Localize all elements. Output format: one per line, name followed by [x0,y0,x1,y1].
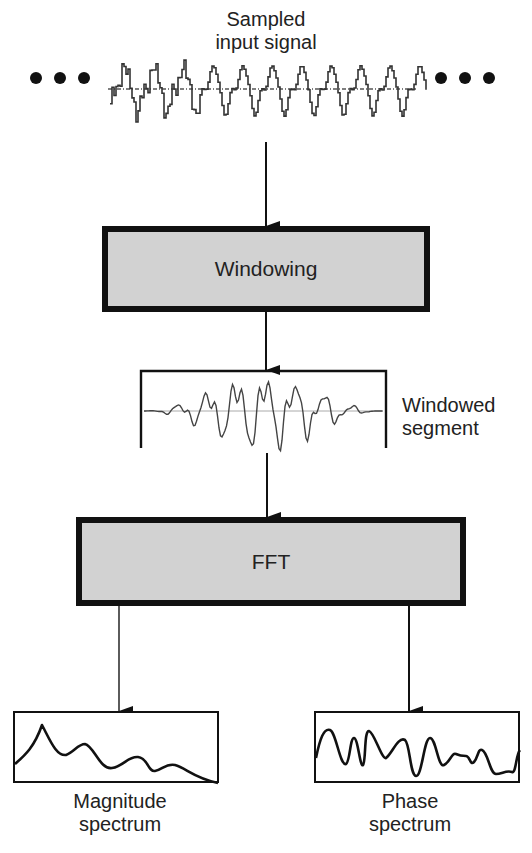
fft-block: FFT [76,517,466,606]
windowing-label: Windowing [215,257,318,281]
windowed-label-line2: segment [402,417,522,440]
magnitude-label-line1: Magnitude [46,790,194,813]
phase-label-line2: spectrum [350,813,470,836]
magnitude-spectrum-label: Magnitude spectrum [46,790,194,836]
magnitude-label-line2: spectrum [46,813,194,836]
windowing-block: Windowing [102,226,430,312]
input-signal-waveform [110,60,426,122]
continuation-dots-left [30,72,90,84]
windowed-segment-label: Windowed segment [402,394,522,440]
fft-label: FFT [252,550,290,574]
phase-spectrum-label: Phase spectrum [350,790,470,836]
phase-spectrum-frame [315,712,519,782]
windowed-label-line1: Windowed [402,394,522,417]
windowed-segment-waveform [144,382,383,451]
windowed-segment-frame [141,371,386,448]
continuation-dots-right [435,72,495,84]
phase-label-line1: Phase [350,790,470,813]
